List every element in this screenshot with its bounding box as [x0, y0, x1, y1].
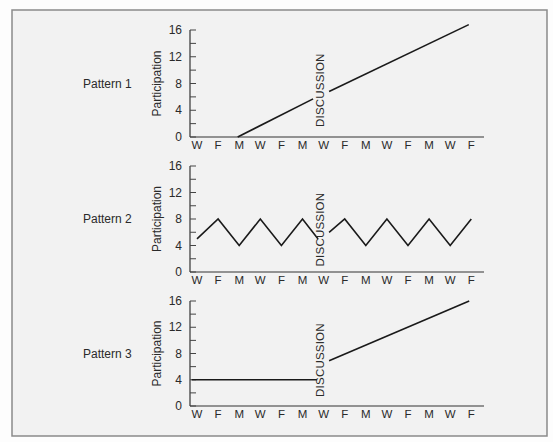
x-tick-label: W: [192, 139, 203, 151]
y-tick-label: 0: [175, 399, 182, 413]
y-tick-label: 12: [169, 320, 183, 334]
x-tick-label: F: [215, 408, 222, 420]
x-tick-label: W: [255, 274, 266, 286]
x-tick-label: W: [192, 274, 203, 286]
discussion-annotation: DISCUSSION: [314, 323, 326, 397]
x-tick-label: M: [424, 408, 434, 420]
x-tick-label: M: [234, 274, 244, 286]
x-tick-label: W: [192, 408, 203, 420]
x-tick-label: F: [341, 408, 348, 420]
x-tick-label: F: [404, 274, 411, 286]
x-tick-label: W: [445, 274, 456, 286]
x-tick-label: F: [468, 139, 475, 151]
discussion-annotation: DISCUSSION: [314, 53, 326, 127]
y-tick-label: 0: [175, 265, 182, 279]
x-tick-label: W: [381, 408, 392, 420]
x-tick-label: F: [404, 139, 411, 151]
x-tick-label: W: [255, 139, 266, 151]
figure: Pattern 1Participation0481216WFMWFMWFMWF…: [0, 0, 553, 442]
panel-title: Pattern 2: [83, 212, 132, 226]
x-tick-label: M: [234, 408, 244, 420]
x-tick-label: F: [215, 139, 222, 151]
y-tick-label: 4: [175, 103, 182, 117]
y-tick-label: 8: [175, 347, 182, 361]
x-tick-label: F: [278, 139, 285, 151]
y-tick-label: 16: [169, 23, 183, 37]
x-tick-label: F: [404, 408, 411, 420]
x-tick-label: F: [215, 274, 222, 286]
x-tick-label: W: [318, 408, 329, 420]
y-axis-label: Participation: [150, 320, 164, 386]
y-tick-label: 12: [169, 186, 183, 200]
y-tick-label: 8: [175, 212, 182, 226]
x-tick-label: F: [341, 139, 348, 151]
y-tick-label: 8: [175, 77, 182, 91]
x-tick-label: M: [424, 274, 434, 286]
y-tick-label: 16: [169, 294, 183, 308]
x-tick-label: W: [318, 274, 329, 286]
x-tick-label: F: [341, 274, 348, 286]
y-tick-label: 4: [175, 373, 182, 387]
y-axis-label: Participation: [150, 186, 164, 252]
x-tick-label: F: [278, 408, 285, 420]
x-tick-label: F: [278, 274, 285, 286]
x-tick-label: W: [445, 408, 456, 420]
x-tick-label: M: [298, 408, 308, 420]
x-tick-label: M: [234, 139, 244, 151]
y-axis-label: Participation: [150, 50, 164, 116]
x-tick-label: W: [318, 139, 329, 151]
x-tick-label: W: [445, 139, 456, 151]
x-tick-label: M: [298, 139, 308, 151]
x-tick-label: F: [468, 274, 475, 286]
x-tick-label: W: [381, 139, 392, 151]
x-tick-label: M: [424, 139, 434, 151]
x-tick-label: W: [255, 408, 266, 420]
x-tick-label: M: [361, 139, 371, 151]
x-tick-label: F: [468, 408, 475, 420]
panel-title: Pattern 1: [83, 77, 132, 91]
y-tick-label: 12: [169, 50, 183, 64]
x-tick-label: M: [361, 274, 371, 286]
y-tick-label: 0: [175, 130, 182, 144]
discussion-annotation: DISCUSSION: [314, 193, 326, 267]
x-tick-label: W: [381, 274, 392, 286]
y-tick-label: 4: [175, 239, 182, 253]
panel-title: Pattern 3: [83, 347, 132, 361]
x-tick-label: M: [361, 408, 371, 420]
y-tick-label: 16: [169, 159, 183, 173]
x-tick-label: M: [298, 274, 308, 286]
